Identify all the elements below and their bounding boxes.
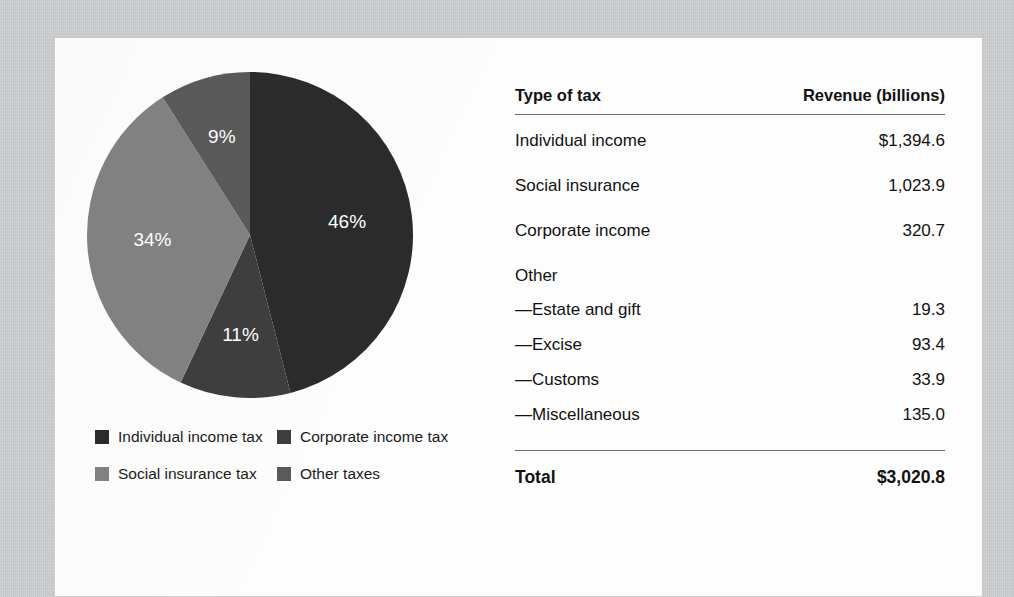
row-value: 93.4 (912, 335, 945, 355)
legend-item-label: Corporate income tax (300, 428, 448, 446)
row-label: Social insurance (515, 176, 640, 196)
column-header-revenue: Revenue (billions) (803, 86, 945, 105)
pie-chart-svg: 46%11%34%9% (85, 70, 415, 400)
legend-swatch-icon (95, 467, 109, 481)
total-label: Total (515, 467, 556, 488)
legend-item-label: Other taxes (300, 465, 380, 483)
table-row: —Customs33.9 (515, 370, 945, 405)
legend-item-label: Social insurance tax (118, 465, 257, 483)
row-label: —Excise (515, 335, 582, 355)
pie-slice-label: 46% (328, 211, 366, 232)
legend-item-corporate-income-tax: Corporate income tax (277, 428, 457, 446)
row-value: 320.7 (902, 221, 945, 241)
legend-item-other-taxes: Other taxes (277, 465, 457, 483)
table-row: —Excise93.4 (515, 335, 945, 370)
table-total-row: Total $3,020.8 (515, 467, 945, 488)
table-body: Individual income$1,394.6Social insuranc… (515, 131, 945, 440)
legend-swatch-icon (277, 430, 291, 444)
row-label: —Miscellaneous (515, 405, 640, 425)
row-label: Individual income (515, 131, 646, 151)
row-value: 33.9 (912, 370, 945, 390)
chart-legend: Individual income tax Corporate income t… (95, 418, 475, 492)
table-row: Other (515, 266, 945, 300)
pie-slice-label: 9% (208, 126, 236, 147)
total-value: $3,020.8 (877, 467, 945, 488)
row-value: 135.0 (902, 405, 945, 425)
pie-chart: 46%11%34%9% (85, 70, 415, 400)
legend-item-label: Individual income tax (118, 428, 263, 446)
row-label: —Customs (515, 370, 599, 390)
row-value: $1,394.6 (879, 131, 945, 151)
column-header-type-of-tax: Type of tax (515, 86, 601, 105)
legend-swatch-icon (95, 430, 109, 444)
table-row: —Miscellaneous135.0 (515, 405, 945, 440)
row-value: 1,023.9 (888, 176, 945, 196)
row-label: Other (515, 266, 558, 286)
table-total-rule (515, 450, 945, 451)
row-value: 19.3 (912, 300, 945, 320)
row-label: —Estate and gift (515, 300, 641, 320)
tax-revenue-table: Type of tax Revenue (billions) Individua… (515, 86, 945, 488)
table-row: Corporate income320.7 (515, 221, 945, 266)
legend-item-individual-income-tax: Individual income tax (95, 428, 277, 446)
table-header-rule (515, 114, 945, 115)
figure-card: 46%11%34%9% Individual income tax Corpor… (55, 38, 982, 596)
pie-slice-label: 11% (222, 324, 259, 345)
table-header-row: Type of tax Revenue (billions) (515, 86, 945, 105)
table-row: Social insurance1,023.9 (515, 176, 945, 221)
table-row: —Estate and gift19.3 (515, 300, 945, 335)
legend-swatch-icon (277, 467, 291, 481)
table-row: Individual income$1,394.6 (515, 131, 945, 176)
legend-item-social-insurance-tax: Social insurance tax (95, 465, 277, 483)
pie-slice-label: 34% (133, 229, 171, 250)
row-label: Corporate income (515, 221, 650, 241)
